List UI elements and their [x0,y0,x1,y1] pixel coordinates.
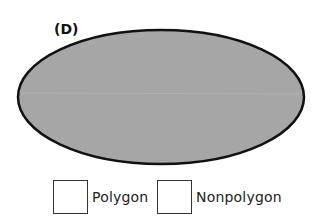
nonpolygon-label: Nonpolygon [196,189,282,205]
option-nonpolygon[interactable]: Nonpolygon [157,179,282,215]
polygon-label: Polygon [92,189,148,205]
nonpolygon-checkbox[interactable] [157,180,192,214]
polygon-checkbox[interactable] [53,180,88,214]
option-polygon[interactable]: Polygon [53,179,148,215]
